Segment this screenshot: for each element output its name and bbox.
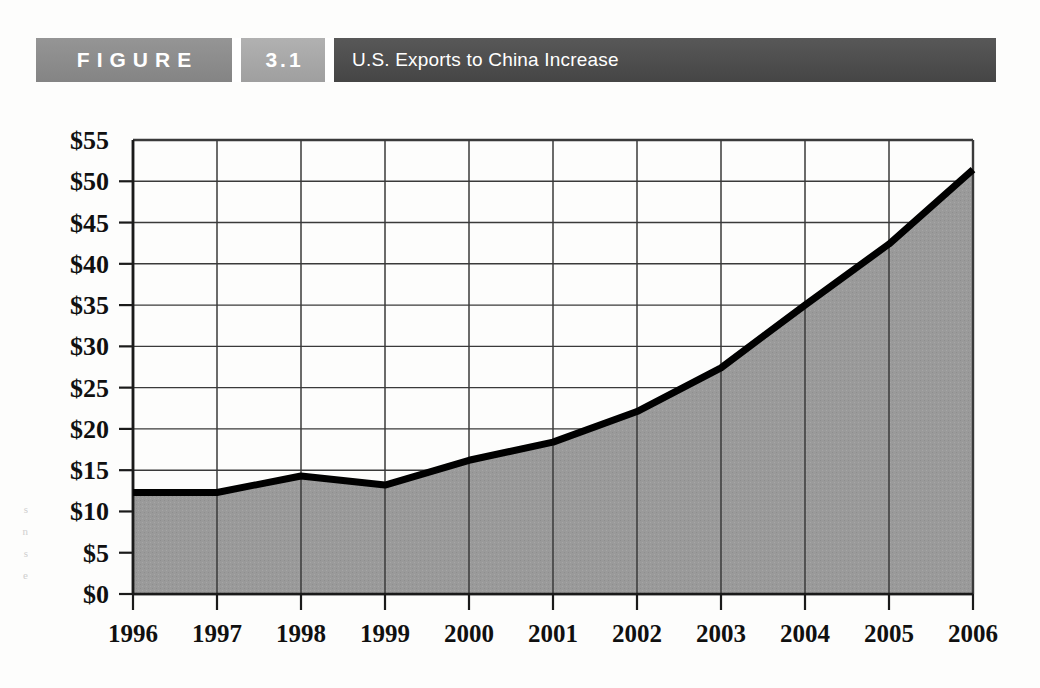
margin-artifact: snse xyxy=(2,498,28,658)
figure-title-block: U.S. Exports to China Increase xyxy=(334,38,996,82)
x-axis-tick-label: 2001 xyxy=(528,620,578,647)
x-axis-tick-label: 2003 xyxy=(696,620,746,647)
x-axis-tick-label: 1999 xyxy=(360,620,410,647)
y-axis-tick-label: $30 xyxy=(70,332,109,361)
y-axis-tick-label: $5 xyxy=(83,539,109,568)
y-axis-tick-label: $25 xyxy=(70,374,109,403)
y-axis-tick-label: $40 xyxy=(70,250,109,279)
x-axis-tick-label: 2004 xyxy=(780,620,831,647)
banner-gap-1 xyxy=(232,38,241,82)
x-axis-tick-label: 1998 xyxy=(276,620,326,647)
figure-banner: FIGURE 3.1 U.S. Exports to China Increas… xyxy=(36,38,996,82)
y-axis-tick-label: $10 xyxy=(70,497,109,526)
margin-artifact-line: n xyxy=(2,520,28,542)
y-axis-tick-label: $0 xyxy=(83,580,109,609)
y-axis-tick-label: $50 xyxy=(70,167,109,196)
figure-page: FIGURE 3.1 U.S. Exports to China Increas… xyxy=(0,0,1040,688)
area-chart: $0$5$10$15$20$25$30$35$40$45$50$55199619… xyxy=(0,96,1040,656)
figure-number-block: 3.1 xyxy=(241,38,325,82)
y-axis-tick-label: $45 xyxy=(70,209,109,238)
x-axis-tick-label: 2002 xyxy=(612,620,662,647)
x-axis-tick-label: 1997 xyxy=(192,620,242,647)
plot-root: $0$5$10$15$20$25$30$35$40$45$50$55199619… xyxy=(70,126,998,647)
margin-artifact-line: e xyxy=(2,564,28,586)
margin-artifact-line: s xyxy=(2,498,28,520)
y-axis-tick-label: $15 xyxy=(70,456,109,485)
y-axis-tick-label: $20 xyxy=(70,415,109,444)
x-axis-tick-label: 1996 xyxy=(108,620,158,647)
x-axis-tick-label: 2006 xyxy=(948,620,998,647)
y-axis-tick-label: $55 xyxy=(70,126,109,155)
x-axis-tick-label: 2005 xyxy=(864,620,914,647)
x-axis-tick-label: 2000 xyxy=(444,620,494,647)
figure-word-block: FIGURE xyxy=(36,38,232,82)
figure-number-label: 3.1 xyxy=(262,48,303,72)
chart-figure: $0$5$10$15$20$25$30$35$40$45$50$55199619… xyxy=(0,96,1040,656)
figure-word-label: FIGURE xyxy=(70,48,198,72)
margin-artifact-line: s xyxy=(2,542,28,564)
figure-title-label: U.S. Exports to China Increase xyxy=(334,49,619,71)
y-axis-tick-label: $35 xyxy=(70,291,109,320)
banner-gap-2 xyxy=(325,38,334,82)
